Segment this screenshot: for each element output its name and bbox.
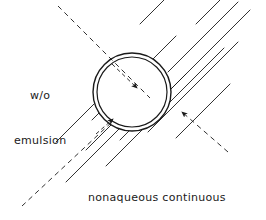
hatch-line (168, 2, 238, 72)
hatch-line (196, 0, 232, 24)
label-wo-emulsion-line1: w/o (14, 88, 66, 103)
label-wo-emulsion-line2: emulsion (14, 133, 66, 148)
hatch-line (140, 0, 202, 24)
hatch-line (176, 84, 230, 138)
droplet-inner-ring (97, 57, 167, 127)
emulsion-schematic-figure: w/o emulsion nonaqueous continuous phase… (0, 0, 266, 220)
droplet-group (93, 53, 171, 131)
caption-line-1: nonaqueous continuous (88, 190, 246, 205)
caption-block: nonaqueous continuous phase containing m… (88, 160, 246, 220)
label-wo-emulsion: w/o emulsion (14, 58, 66, 178)
leader-to-continuous-phase (182, 112, 228, 152)
